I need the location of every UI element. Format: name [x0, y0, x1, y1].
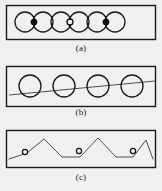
intersection-marker-filled	[31, 19, 37, 25]
intersection-marker-filled	[103, 19, 109, 25]
panel-b-circle	[19, 75, 41, 97]
panel-b-caption: (b)	[0, 107, 162, 117]
panel-c-marker-group	[22, 148, 135, 154]
intersection-marker-hollow	[67, 19, 73, 25]
vertex-marker-hollow	[130, 148, 135, 153]
panel-c-drawing	[0, 126, 162, 174]
vertex-marker-hollow	[22, 149, 27, 154]
panel-b-crossing-line	[9, 81, 155, 95]
panel-a-frame	[7, 6, 156, 40]
panel-b-circle	[121, 75, 143, 97]
panel-c-caption: (c)	[0, 172, 162, 182]
panel-b-circle	[53, 75, 75, 97]
panel-a-drawing	[0, 0, 162, 45]
panel-b-frame	[7, 67, 156, 107]
vertex-marker-hollow	[76, 148, 81, 153]
panel-a-caption: (a)	[0, 43, 162, 53]
figure-container: (a) (b) (c)	[0, 0, 162, 191]
panel-b-drawing	[0, 62, 162, 112]
panel-b-circle-group	[19, 75, 143, 97]
panel-a-marker-group	[31, 19, 109, 25]
